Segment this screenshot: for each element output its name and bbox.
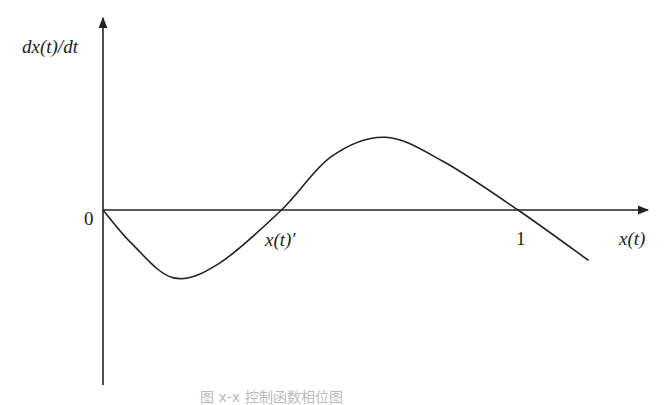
- marker-label-x-prime: x(t)′: [264, 229, 296, 251]
- y-axis-label: dx(t)/dt: [22, 36, 79, 58]
- x-axis-label: x(t): [618, 228, 645, 250]
- figure-caption: 图 x-x 控制函数相位图: [200, 389, 343, 405]
- phase-diagram: dx(t)/dt 0 x(t)′ 1 x(t) 图 x-x 控制函数相位图: [0, 0, 670, 405]
- marker-label-one: 1: [516, 228, 526, 249]
- origin-label: 0: [84, 208, 94, 229]
- phase-curve: [103, 137, 589, 279]
